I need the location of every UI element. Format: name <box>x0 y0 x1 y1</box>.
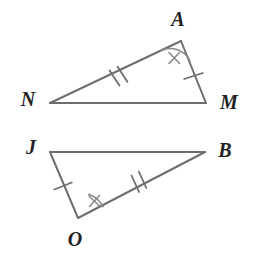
vertex-label-B: B <box>217 139 231 161</box>
vertex-label-N: N <box>20 88 37 110</box>
side-AM <box>181 41 206 103</box>
vertex-label-M: M <box>219 91 239 113</box>
vertex-label-A: A <box>169 8 184 30</box>
tick-double-side-NA <box>110 67 128 86</box>
vertex-label-O: O <box>68 228 82 250</box>
triangle-NAM: N A M <box>20 8 239 113</box>
vertex-label-J: J <box>25 136 37 158</box>
triangle-JOB: J B O <box>25 136 232 250</box>
side-OB <box>78 152 205 218</box>
angle-mark-O <box>89 194 103 206</box>
geometry-figure: N A M J B O <box>0 0 258 263</box>
geometry-canvas: N A M J B O <box>0 0 258 263</box>
